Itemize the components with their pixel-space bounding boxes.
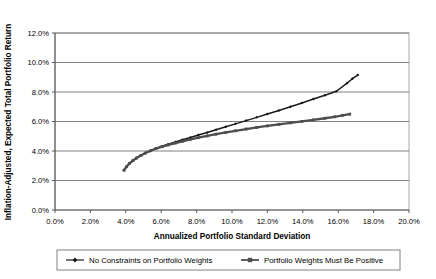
series-marker-square [255,126,258,129]
series-marker-square [123,169,126,172]
series-marker-square [125,165,128,168]
series-marker-square [128,162,131,165]
series-marker-square [224,131,227,134]
y-tick-label: 8.0% [32,88,50,97]
series-marker-square [154,147,157,150]
series-marker-square [312,118,315,121]
series-marker-square [341,114,344,117]
y-tick-label: 10.0% [27,58,49,67]
legend-label: Portfolio Weights Must Be Positive [264,256,383,265]
x-tick-label: 2.0% [82,217,100,226]
series-marker-square [245,128,248,131]
series-marker-square [149,149,152,152]
x-tick-label: 12.0% [257,217,279,226]
series-marker-square [197,136,200,139]
series-marker-square [167,144,170,147]
chart-container: 0.0%2.0%4.0%6.0%8.0%10.0%12.0% 0.0%2.0%4… [0,0,436,279]
x-tick-label: 18.0% [363,217,385,226]
series-marker-square [301,120,304,123]
y-tick-label: 0.0% [32,206,50,215]
series-marker-square [234,129,237,132]
y-axis-title: Inflation-Adjusted, Expected Total Portf… [4,24,13,220]
series-marker-square [215,133,218,136]
series-marker-square [139,154,142,157]
x-tick-label: 20.0% [398,217,420,226]
x-tick-label: 4.0% [117,217,135,226]
x-tick-label: 6.0% [153,217,171,226]
series-marker-square [324,117,327,120]
legend-marker-square [248,258,252,262]
chart-legend: No Constraints on Portfolio WeightsPortf… [57,250,400,270]
series-marker-square [135,157,138,160]
series-marker-square [289,121,292,124]
x-tick-label: 14.0% [292,217,314,226]
x-axis-title: Annualized Portfolio Standard Deviation [154,232,310,241]
series-marker-square [189,138,192,141]
series-marker-square [278,123,281,126]
y-tick-label: 12.0% [27,29,49,38]
y-tick-label: 2.0% [32,176,50,185]
series-marker-square [174,142,177,145]
y-tick-label: 4.0% [32,147,50,156]
x-tick-label: 10.0% [221,217,243,226]
x-tick-label: 0.0% [46,217,64,226]
chart-canvas: 0.0%2.0%4.0%6.0%8.0%10.0%12.0% 0.0%2.0%4… [0,0,436,279]
series-marker-square [333,115,336,118]
x-tick-label: 16.0% [327,217,349,226]
series-marker-square [348,113,351,116]
series-marker-square [144,152,147,155]
series-marker-square [206,135,209,138]
series-marker-square [266,125,269,128]
legend-label: No Constraints on Portfolio Weights [89,256,212,265]
y-tick-label: 6.0% [32,117,50,126]
series-marker-square [131,159,134,162]
series-marker-square [181,140,184,143]
series-marker-square [161,145,164,148]
x-tick-label: 8.0% [188,217,206,226]
